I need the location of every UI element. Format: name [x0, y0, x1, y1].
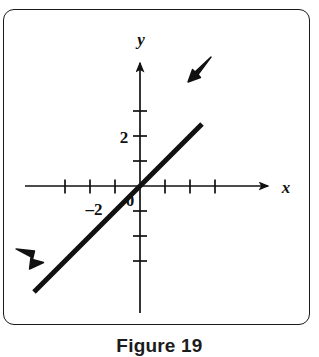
line-arrowhead-upper-right — [188, 57, 211, 82]
x-axis: x — [25, 178, 291, 197]
y-axis-label: y — [135, 30, 145, 49]
y-intercept-label: 2 — [120, 128, 129, 147]
line-series-y-equals-x-plus-2 — [16, 57, 211, 292]
x-intercept-label: –2 — [85, 200, 103, 219]
origin-label: 0 — [126, 191, 135, 210]
y-axis: y — [133, 30, 147, 313]
figure-caption: Figure 19 — [0, 335, 319, 357]
line-arrowhead-lower-left — [16, 249, 44, 269]
line-segment — [34, 124, 202, 292]
x-axis-label: x — [281, 178, 291, 197]
